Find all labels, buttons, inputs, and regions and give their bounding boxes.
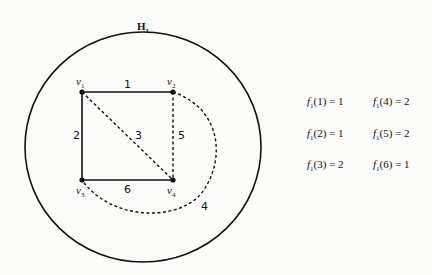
function-value-5: f1(5) = 2 — [373, 127, 410, 142]
fn-sub: 1 — [310, 134, 314, 142]
vertex-label-v4: v4 — [167, 185, 175, 199]
fn-sub: 1 — [310, 102, 314, 110]
fn-value: 1 — [338, 95, 344, 107]
fn-value: 1 — [338, 127, 344, 139]
fn-sub: 1 — [310, 165, 314, 173]
fn-arg: 2 — [317, 127, 323, 139]
graph-title-text: H — [137, 20, 146, 32]
graph-title-sub: 1 — [146, 27, 150, 35]
edge-4 — [82, 92, 216, 213]
edge-label-5: 5 — [178, 130, 185, 141]
fn-sub: 1 — [376, 102, 380, 110]
function-value-3: f1(3) = 2 — [307, 158, 344, 173]
fn-value: 2 — [338, 158, 344, 170]
fn-sub: 1 — [376, 165, 380, 173]
edge-label-1: 1 — [124, 79, 131, 90]
v1-sub: 1 — [81, 82, 85, 90]
fn-arg: 6 — [383, 158, 389, 170]
vertex-label-v2: v2 — [167, 76, 175, 90]
vertex-label-v1: v1 — [76, 76, 84, 90]
fn-arg: 1 — [317, 95, 323, 107]
fn-value: 2 — [404, 127, 410, 139]
vertex-label-v3: v3 — [76, 185, 84, 199]
edge-3 — [82, 92, 173, 180]
fn-sub: 1 — [376, 134, 380, 142]
region-circle — [25, 32, 261, 262]
fn-arg: 4 — [383, 95, 389, 107]
edge-label-2: 2 — [73, 130, 80, 141]
edge-label-6: 6 — [124, 184, 131, 195]
fn-value: 1 — [404, 158, 410, 170]
fn-arg: 3 — [317, 158, 323, 170]
function-value-4: f1(4) = 2 — [373, 95, 410, 110]
fn-value: 2 — [404, 95, 410, 107]
edge-label-4: 4 — [201, 201, 208, 212]
v3-sub: 3 — [81, 191, 85, 199]
vertex-v4-dot — [170, 177, 175, 182]
fn-arg: 5 — [383, 127, 389, 139]
function-value-6: f1(6) = 1 — [373, 158, 410, 173]
graph-drawing — [0, 0, 432, 275]
function-value-2: f1(2) = 1 — [307, 127, 344, 142]
vertex-v3-dot — [79, 177, 84, 182]
graph-title: H1 — [137, 20, 149, 35]
v4-sub: 4 — [172, 191, 176, 199]
edge-label-3: 3 — [135, 130, 142, 141]
function-value-1: f1(1) = 1 — [307, 95, 344, 110]
v2-sub: 2 — [172, 82, 176, 90]
